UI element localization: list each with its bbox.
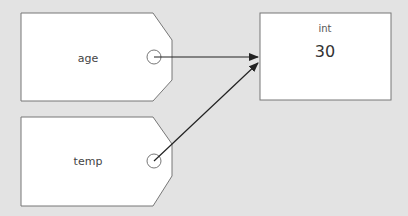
diagram-canvas [0,0,408,216]
variable-name-age: age [78,52,99,65]
variable-name-temp: temp [74,155,103,168]
object-value: 30 [315,42,335,61]
object-type: int [318,23,331,34]
